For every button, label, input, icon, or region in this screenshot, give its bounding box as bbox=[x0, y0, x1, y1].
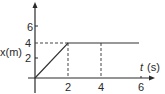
y-tick-label-4: 4 bbox=[25, 37, 31, 49]
x-tick-label-2: 2 bbox=[65, 81, 71, 93]
position-time-graph: 6 4 2 x(m) 2 4 6 t (s) bbox=[0, 0, 165, 94]
y-tick-label-2: 2 bbox=[25, 52, 31, 64]
y-axis-arrow-icon bbox=[33, 2, 38, 8]
x-tick-label-6: 6 bbox=[138, 81, 144, 93]
data-line-x-of-t bbox=[35, 43, 139, 78]
y-tick-label-6: 6 bbox=[27, 21, 33, 33]
y-axis-label: x(m) bbox=[0, 46, 22, 58]
x-axis-arrow-icon bbox=[149, 76, 155, 81]
x-tick-label-4: 4 bbox=[98, 81, 104, 93]
x-axis-label-t: t bbox=[140, 61, 144, 73]
x-axis-label-unit: (s) bbox=[147, 61, 160, 73]
